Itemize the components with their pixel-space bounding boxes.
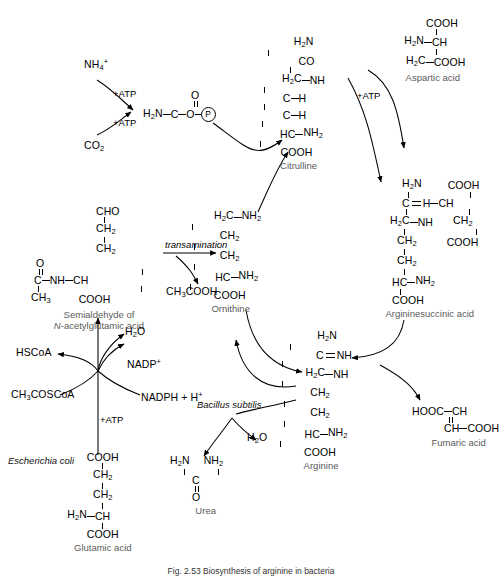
urea-carbon: C [192,475,223,486]
cofactor-atp-2: +ATP [113,117,136,128]
argsucc-cooh-top: COOH [448,180,480,191]
compound-glutamic-acid: COOH CH2 CH2 H2N CH COOH Glutamic acid [74,452,132,553]
glutamate-ch2-2: CH2 [93,489,113,503]
compound-arginine: H2N C NH H2C NH CH2 CH2 HC NH2 COOH Argi… [302,330,352,471]
compound-citrulline: H2N CO H2C NH CH CH HC NH2 COOH Citrulli… [282,36,325,171]
citrulline-c4: CH [283,93,306,104]
substrate-acetyl-coa: CH3COSCoA [11,389,74,403]
citrulline-c3: H2C NH [282,73,325,87]
arrow-to-fumaric-acid [380,365,420,400]
glutamate-alpha: H2N CH [67,509,110,523]
label-argininosuccinic-acid: Argininesuccinic acid [380,308,480,319]
compound-co2: CO2 [84,140,104,154]
figure-caption: Fig. 2.53 Biosynthesis of arginine in ba… [0,566,502,576]
compound-argininosuccinic-acid: H2N COOH C H CH H2C NH CH2 [402,178,480,319]
compound-acetic-acid: CH3COOH [166,286,218,300]
cofactor-atp-3: +ATP [357,90,380,101]
compound-carbamoyl-phosphate: O H2N C O P [143,90,216,122]
aspartate-beta-carbon: H2C COOH [406,55,466,69]
glutamate-cooh-bot: COOH [87,529,119,540]
semialdehyde-ch2-2: CH2 [96,243,164,257]
semialdehyde-ends: CH3 COOH [34,292,164,306]
urea-oxygen: O [192,492,223,503]
label-escherichia-coli: Escherichia coli [8,455,74,466]
label-citrulline: Citrulline [280,160,317,171]
arginine-delta: H2C NH [306,367,349,381]
label-aspartic-acid: Aspartic acid [400,72,466,83]
carbamoyl-backbone: H2N C O P [143,107,216,122]
label-urea: Urea [188,505,223,516]
compound-ammonium: NH4+ [84,56,108,73]
citrulline-amino-top: H2N [294,36,314,50]
citrulline-carboxyl: COOH [281,147,313,158]
arginine-guanidino-carbon: C NH [316,350,352,361]
semialdehyde-cho: CHO [96,206,164,217]
arrow-release-water [98,334,124,371]
arginine-guanidino-amino: H2N [317,330,337,344]
compound-ornithine: H2C NH2 CH2 CH2 HC NH2 COOH Ornithine [214,210,261,314]
label-glutamic-acid: Glutamic acid [74,542,132,553]
arginine-ch2-2: CH2 [310,407,330,421]
arrow-ornithine-cycle-right [246,310,302,372]
byproduct-hscoa: HSCoA [16,347,52,358]
line-nadph-in [98,371,140,395]
arrow-to-urea [204,418,232,456]
pathway-diagram-canvas: NH4+ +ATP +ATP CO2 O H2N C O P H2N CO H2… [0,0,502,579]
label-bacillus-subtilis: Bacillus subtilis [197,399,261,410]
argsucc-cooh-bot: COOH [392,295,480,306]
citrulline-alpha-carbon: HC NH2 [280,127,323,141]
argsucc-ch2b: CH2 [397,255,480,269]
label-ornithine: Ornithine [211,303,250,314]
ornithine-ch2-2: CH2 [220,250,240,264]
arrow-release-nadp [98,344,124,371]
arrow-release-acetic-acid [176,256,198,284]
arginine-ch2-1: CH2 [310,387,330,401]
compound-aspartic-acid: COOH H2N CH H2C COOH Aspartic acid [386,18,466,83]
compound-semialdehyde-n-acetylglutamic-acid: CHO CH2 CH2 O C NH CH CH3 [34,206,164,331]
semialdehyde-backbone: C NH CH [34,275,164,286]
label-transamination: transamination [165,239,227,250]
argsucc-bridge: C H CH [402,198,480,209]
arrow-release-hscoa [58,354,98,371]
ornithine-delta-amino: H2C NH2 [214,210,261,224]
label-arginine: Arginine [304,460,339,471]
glutamate-cooh-top: COOH [87,452,119,463]
phosphate-group-icon: P [201,107,216,122]
ornithine-cooh: COOH [214,290,246,301]
carbamoyl-carbonyl-oxygen: O [191,90,216,101]
semialdehyde-ch2-1: CH2 [96,223,164,237]
aspartate-alpha-carbon: H2N CH [386,35,466,49]
fumarate-top: HOOC CH [412,406,499,417]
citrulline-c5: CH [283,110,306,121]
label-fumaric-acid: Fumaric acid [418,437,499,448]
cofactor-atp-4: +ATP [100,414,123,425]
semialdehyde-acetyl-oxygen: O [36,258,164,269]
citrulline-carbonyl: CO [299,56,315,67]
byproduct-water: H2O [125,326,145,340]
byproduct-water-urea: H2O [247,432,267,446]
fumarate-bottom: CH COOH [444,423,499,434]
compound-fumaric-acid: HOOC CH CH COOH Fumaric acid [412,406,499,448]
compound-urea: H2N NH2 C O Urea [170,455,223,516]
argsucc-nh: H2C NH CH2 [390,215,480,229]
urea-amines: H2N NH2 [170,455,223,469]
arrow-carbamoyl-to-citrulline [213,123,282,151]
argsucc-amino: H2N [402,178,422,192]
arrow-argininosuccinate-to-arginine [352,320,404,358]
ornithine-alpha: HC NH2 [215,270,258,284]
substrate-nadph: NADPH + H+ [141,389,203,403]
argsucc-alpha: HC NH2 [392,275,480,289]
arrow-arginine-to-ornithine [236,340,296,387]
argsucc-ch2-cooh: CH2 COOH [402,235,480,249]
byproduct-nadp-plus: NADP+ [127,356,161,370]
arginine-cooh: COOH [304,447,336,458]
arginine-alpha: HC NH2 [305,427,348,441]
glutamate-ch2-1: CH2 [93,469,113,483]
aspartate-cooh-top: COOH [426,18,466,29]
cofactor-atp-1: +ATP [113,88,136,99]
